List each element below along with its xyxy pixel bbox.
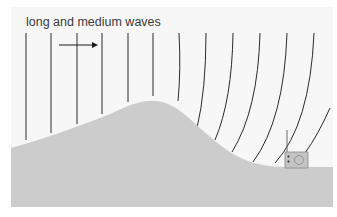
radio-knob-2 (287, 160, 289, 162)
diagram-label: long and medium waves (26, 15, 161, 29)
radio-knob-1 (287, 155, 289, 157)
diagram: long and medium waves (0, 0, 337, 217)
radio-body (285, 152, 308, 168)
diagram-canvas (0, 0, 337, 217)
